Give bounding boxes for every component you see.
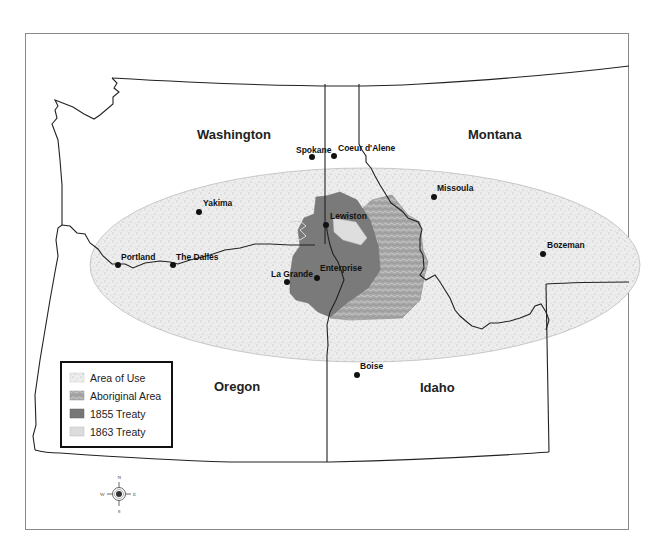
city-label: La Grande bbox=[271, 269, 313, 279]
legend-item-1863-treaty: 1863 Treaty bbox=[70, 426, 146, 438]
legend-swatch bbox=[70, 409, 84, 418]
compass-south: S bbox=[118, 509, 121, 514]
city-label: Lewiston bbox=[330, 211, 367, 221]
city-label: Missoula bbox=[437, 183, 474, 193]
city-dot bbox=[354, 372, 360, 378]
city-label: Yakima bbox=[203, 198, 233, 208]
legend-item-area-of-use: Area of Use bbox=[70, 372, 146, 384]
legend-item-1855-treaty: 1855 Treaty bbox=[70, 408, 146, 420]
state-label-washington: Washington bbox=[197, 127, 271, 142]
legend-swatch bbox=[70, 391, 84, 400]
legend-label: 1863 Treaty bbox=[90, 426, 146, 438]
city-label: Boise bbox=[360, 361, 383, 371]
city-dot bbox=[115, 262, 121, 268]
city-dot bbox=[323, 222, 329, 228]
city-dot bbox=[284, 279, 290, 285]
state-label-montana: Montana bbox=[468, 127, 522, 142]
legend-swatch bbox=[70, 427, 84, 436]
city-dot bbox=[431, 194, 437, 200]
map-legend: Area of Use Aboriginal Area 1855 Treaty … bbox=[61, 362, 172, 447]
legend-label: Area of Use bbox=[90, 372, 146, 384]
state-label-idaho: Idaho bbox=[420, 380, 455, 395]
legend-swatch bbox=[70, 373, 84, 382]
city-label: Portland bbox=[121, 252, 155, 262]
city-label: Spokane bbox=[296, 145, 332, 155]
legend-label: 1855 Treaty bbox=[90, 408, 146, 420]
city-label: Bozeman bbox=[547, 240, 585, 250]
city-label: Enterprise bbox=[320, 263, 362, 273]
compass-west: W bbox=[100, 492, 105, 497]
city-dot bbox=[196, 209, 202, 215]
compass-east: E bbox=[133, 492, 136, 497]
city-dot bbox=[314, 275, 320, 281]
compass-north: N bbox=[117, 475, 121, 480]
city-label: Coeur d'Alene bbox=[338, 143, 396, 153]
city-label: The Dalles bbox=[176, 252, 219, 262]
city-dot bbox=[540, 251, 546, 257]
state-label-oregon: Oregon bbox=[214, 379, 260, 394]
legend-label: Aboriginal Area bbox=[90, 390, 161, 402]
city-dot bbox=[331, 153, 337, 159]
treaty-map: Washington Montana Oregon Idaho Spokane … bbox=[0, 0, 654, 555]
legend-item-aboriginal-area: Aboriginal Area bbox=[70, 390, 161, 402]
city-dot bbox=[170, 262, 176, 268]
